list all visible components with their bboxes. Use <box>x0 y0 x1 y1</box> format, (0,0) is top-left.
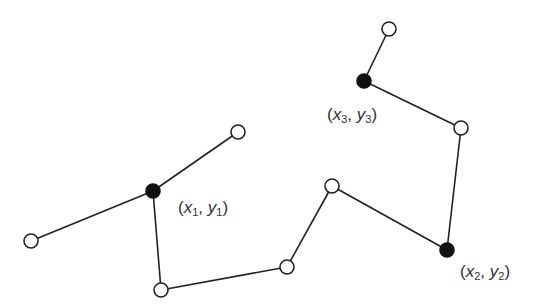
var-y: y <box>208 198 217 217</box>
open-node <box>382 22 396 36</box>
paren: ) <box>371 105 377 124</box>
open-node <box>154 283 168 297</box>
filled-node-x3 <box>357 74 371 88</box>
label-x1-y1: (x1, y1) <box>178 198 228 218</box>
separator: , <box>347 105 356 124</box>
var-y: y <box>490 262 499 281</box>
open-node <box>454 121 468 135</box>
filled-node-x2 <box>440 243 454 257</box>
filled-node-x1 <box>146 184 160 198</box>
var-x: x <box>333 105 342 124</box>
open-node <box>24 234 38 248</box>
label-x2-y2: (x2, y2) <box>460 262 510 282</box>
edge <box>364 29 389 81</box>
edge <box>332 186 447 250</box>
open-node <box>325 179 339 193</box>
open-node <box>231 125 245 139</box>
var-y: y <box>357 105 366 124</box>
separator: , <box>198 198 207 217</box>
edge <box>161 267 287 290</box>
edge <box>153 132 238 191</box>
edge <box>364 81 461 128</box>
edge <box>287 186 332 267</box>
edges <box>31 29 461 290</box>
var-x: x <box>466 262 475 281</box>
var-x: x <box>184 198 193 217</box>
paren: ) <box>504 262 510 281</box>
open-node <box>280 260 294 274</box>
edge <box>31 191 153 241</box>
edge <box>447 128 461 250</box>
separator: , <box>480 262 489 281</box>
edge <box>153 191 161 290</box>
nodes <box>24 22 468 297</box>
paren: ) <box>222 198 228 217</box>
label-x3-y3: (x3, y3) <box>327 105 377 125</box>
